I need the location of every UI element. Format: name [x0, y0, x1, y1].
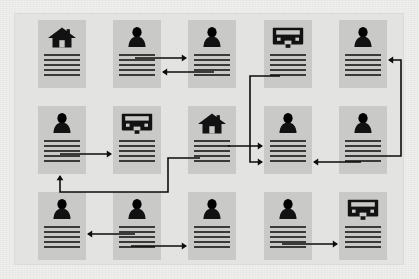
- arrow-head: [258, 143, 263, 150]
- arrow-head: [313, 159, 318, 166]
- arrow-head: [333, 241, 338, 248]
- connector[interactable]: [282, 241, 338, 248]
- connector[interactable]: [228, 143, 263, 150]
- connector-line[interactable]: [60, 158, 200, 192]
- connector[interactable]: [60, 151, 112, 158]
- connector[interactable]: [250, 76, 280, 165]
- connector[interactable]: [87, 231, 135, 238]
- arrow-head: [162, 69, 167, 76]
- connector-line[interactable]: [250, 76, 280, 162]
- arrow-head: [182, 243, 187, 250]
- arrow-head: [107, 151, 112, 158]
- arrow-head: [87, 231, 92, 238]
- connector-line[interactable]: [381, 60, 401, 156]
- connector[interactable]: [135, 55, 187, 62]
- connector[interactable]: [313, 159, 361, 166]
- connector[interactable]: [57, 158, 200, 192]
- connector[interactable]: [162, 69, 214, 76]
- arrow-head: [182, 55, 187, 62]
- arrow-head: [388, 57, 393, 64]
- connector[interactable]: [381, 57, 401, 156]
- connector-layer: [0, 0, 419, 279]
- arrow-head: [57, 175, 64, 180]
- connector[interactable]: [131, 243, 187, 250]
- arrow-head: [258, 159, 263, 166]
